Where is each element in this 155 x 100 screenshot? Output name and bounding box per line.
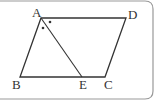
label-b: B (12, 77, 21, 92)
label-a: A (32, 5, 42, 20)
angle-mark-ead (49, 21, 52, 24)
label-c: C (104, 77, 113, 92)
label-e: E (79, 77, 87, 92)
label-d: D (128, 7, 137, 22)
segment-ae (41, 18, 82, 77)
diagram: A D B E C (0, 0, 155, 100)
angle-mark-bae (42, 27, 45, 30)
parallelogram-abcd (20, 18, 126, 77)
